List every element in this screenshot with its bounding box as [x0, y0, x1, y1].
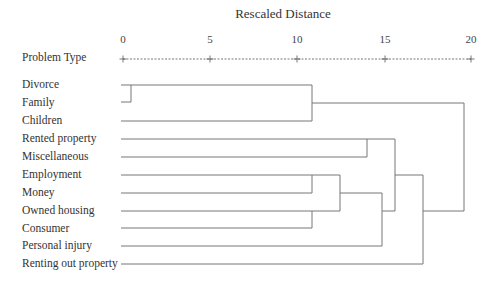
- dendrogram-plot: [0, 0, 496, 285]
- dendrogram-branches: [121, 85, 464, 264]
- distance-axis: [120, 56, 475, 63]
